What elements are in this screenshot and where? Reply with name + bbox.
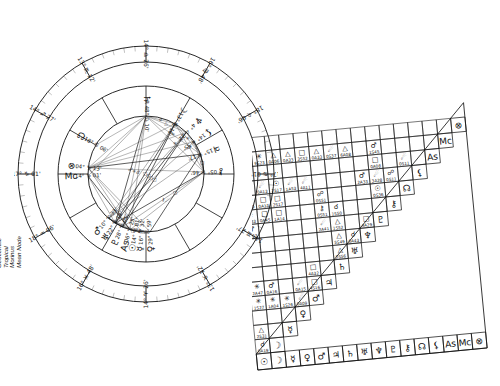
aspect-orb: 0A13 — [257, 189, 268, 195]
house-cusp-line — [102, 98, 117, 124]
grid-cell — [353, 155, 369, 171]
aspect-cell-pluto-jupiter: ☄2A41 — [317, 217, 329, 232]
svg-text:13° ♉ 12': 13° ♉ 12' — [195, 264, 216, 293]
grid-cell — [343, 200, 359, 216]
aspect-orb: 0A13 — [258, 203, 269, 209]
aspect-orb: 1S26 — [282, 302, 293, 308]
svg-text:13° ♏ 12': 13° ♏ 12' — [76, 55, 97, 84]
aspect-cell-node-pluto: ☉0S36 — [372, 184, 384, 198]
aspect-cell-lilith-moon: ☄0A13 — [256, 180, 268, 195]
aspect-cell-jupiter-sun: ✳2A47 — [252, 283, 264, 297]
aspect-orb: 0S37 — [326, 153, 337, 159]
aspect-orb: 0S11 — [386, 176, 397, 182]
svg-text:△: △ — [144, 229, 148, 234]
grid-cell — [365, 125, 381, 141]
grid-cell — [296, 161, 312, 177]
grid-cell — [356, 184, 372, 200]
aspect-orb: 0S11 — [399, 160, 410, 166]
grid-cell — [300, 204, 316, 220]
aspect-orb: 9S23 — [254, 160, 265, 166]
aspect-cell-node-jupiter: ☍0S51 — [315, 190, 327, 204]
grid-row-glyph-chiron: ⚷ — [390, 199, 398, 210]
aspect-orb: 1S27 — [254, 305, 265, 311]
aspect-orb: 2S17 — [271, 187, 282, 193]
aspect-orb: 1A14 — [274, 216, 285, 222]
aspect-orb: 2S17 — [273, 202, 284, 208]
grid-header-glyph-lilith: ⚸ — [432, 340, 440, 351]
aspect-orb: 0A45 — [260, 217, 271, 223]
svg-text:△: △ — [164, 121, 168, 126]
house-cusp-label: 16° ♍ 48' — [195, 56, 217, 86]
grid-cell — [340, 171, 356, 187]
aspect-cell-mars-sun: ✳1S27 — [253, 297, 265, 311]
grid-cell — [290, 248, 306, 264]
svg-text:☌: ☌ — [159, 117, 162, 122]
svg-text:△: △ — [138, 228, 142, 233]
aspect-cell-mc-jupiter: △0A33 — [311, 147, 323, 161]
aspect-cell-mc-pluto: ♂1S45 — [368, 141, 380, 155]
grid-row-glyph-jupiter: ♃ — [324, 277, 333, 288]
grid-header-glyph-sun: ☉ — [260, 356, 269, 367]
svg-text:✳: ✳ — [186, 136, 190, 141]
grid-cell — [264, 135, 280, 151]
aspect-cell-lilith-neptune: ♂2A33 — [356, 171, 368, 185]
grid-cell — [303, 233, 319, 249]
aspect-cell-uranus-saturn: △5S56 — [335, 246, 347, 260]
svg-text:14° ♐ 27': 14° ♐ 27' — [28, 103, 57, 124]
grid-header-glyph-moon: ☽ — [274, 355, 283, 366]
grid-cell — [322, 129, 338, 145]
svg-text:□: □ — [149, 175, 153, 180]
aspect-grid-svg: ☉☽☿♀♂♃♄♅♆♇⚷☊⚸AsMc⊗☽☿♀♂♃♄♅♆♇⚷☊⚸AsMc⊗☌0A19… — [252, 82, 500, 386]
grid-row-glyph-as: As — [427, 151, 439, 162]
aspect-orb: 0A09 — [297, 301, 308, 307]
aspect-orb: 1A04 — [268, 303, 279, 309]
svg-text:♂: ♂ — [136, 170, 140, 175]
svg-text:14° ♈ 26': 14° ♈ 26' — [142, 279, 149, 308]
grid-header-glyph-as: As — [445, 338, 457, 349]
grid-cell — [310, 159, 326, 175]
grid-header-glyph-mercury: ☿ — [290, 354, 296, 364]
aspect-cell-mc-saturn: ☄0S37 — [325, 144, 337, 159]
grid-row-glyph-node: ☊ — [402, 183, 411, 194]
grid-header-glyph-saturn: ♄ — [346, 348, 355, 359]
svg-text:16° ♓ 48': 16° ♓ 48' — [75, 263, 96, 292]
grid-cell — [260, 237, 276, 253]
grid-cell — [301, 218, 317, 234]
aspect-orb: 5S56 — [335, 253, 346, 259]
aspect-line — [88, 176, 115, 223]
aspect-cell-chiron-sun: ✳1A33 — [252, 211, 257, 225]
aspect-cell-moon-sun: ☌0A19 — [257, 340, 269, 354]
svg-text:☄: ☄ — [195, 144, 199, 150]
grid-cell — [275, 250, 291, 266]
aspect-orb: 0A19 — [258, 348, 269, 354]
aspect-orb: 1S45 — [369, 149, 380, 155]
svg-text:△: △ — [141, 229, 145, 234]
aspect-cell-lilith-mars: ☄4A11 — [299, 176, 311, 191]
aspect-cell-jupiter-mars: □4S16 — [309, 277, 321, 291]
grid-row-glyph-uranus: ♅ — [350, 246, 359, 257]
grid-header-glyph-venus: ♀ — [303, 352, 311, 363]
grid-row-glyph-mars: ♂ — [312, 293, 321, 304]
grid-cell — [258, 222, 274, 238]
grid-header-glyph-mars: ♂ — [317, 351, 326, 362]
grid-cell — [379, 124, 395, 140]
aspect-cell-chiron-jupiter: ⚷0S51 — [316, 204, 328, 218]
grid-row-glyph-fortune: ⊗ — [454, 120, 462, 131]
astrology-chart-page: Oliver Cromwell–Birth Male Chart 25 Apr … — [0, 0, 500, 386]
grid-cell — [288, 234, 304, 250]
aspect-cell-lilith-venus: ☄1A53 — [285, 177, 297, 192]
grid-header-glyph-fortune: ⊗ — [475, 336, 483, 347]
aspect-cell-mc-moon: ✳9S23 — [253, 152, 265, 166]
aspect-cell-as-pluto: □0A08 — [369, 155, 381, 169]
grid-cell — [284, 191, 300, 207]
grid-cell — [344, 214, 360, 230]
grid-cell — [357, 198, 373, 214]
aspect-cell-lilith-chiron: ☍0S11 — [385, 168, 397, 182]
grid-cell — [291, 263, 307, 279]
svg-text:14° ♎ 26': 14° ♎ 26' — [143, 39, 150, 68]
svg-text:☍: ☍ — [128, 167, 133, 172]
grid-cell — [341, 185, 357, 201]
aspect-orb: 0A16 — [266, 289, 277, 295]
grid-cell — [422, 120, 438, 136]
aspect-cell-pluto-neptune: □4A29 — [361, 214, 373, 228]
